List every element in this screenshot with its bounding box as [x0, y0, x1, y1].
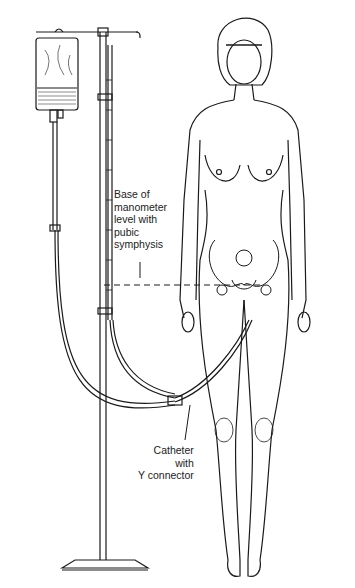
label-line: symphysis — [114, 238, 167, 251]
label-line: pubic — [114, 226, 167, 239]
label-line: manometer — [114, 201, 167, 214]
iv-bag — [36, 29, 78, 231]
label-line: Catheter — [138, 444, 194, 457]
patient-figure — [180, 18, 310, 576]
catheter-pointer — [185, 405, 190, 440]
pelvis — [209, 240, 278, 295]
catheter-label: Catheter with Y connector — [138, 444, 194, 482]
iv-pole — [36, 28, 148, 570]
illustration — [0, 0, 355, 588]
label-line: Y connector — [138, 469, 194, 482]
label-line: with — [138, 457, 194, 470]
base-of-manometer-label: Base of manometer level with pubic symph… — [114, 188, 167, 251]
tubing — [55, 230, 252, 408]
label-line: level with — [114, 213, 167, 226]
label-line: Base of — [114, 188, 167, 201]
